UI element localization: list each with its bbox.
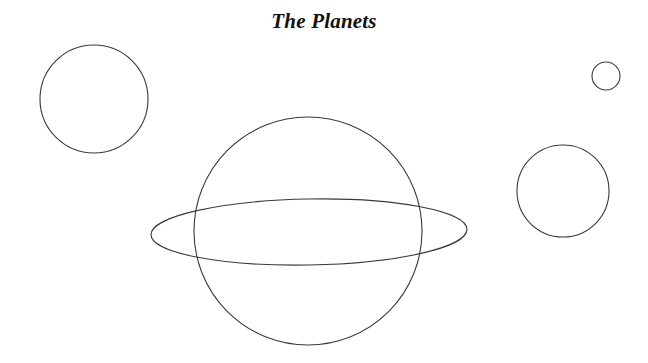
- planets-scene: [0, 0, 648, 363]
- planet-ringed-body: [194, 117, 422, 345]
- planet-right: [517, 145, 609, 237]
- planet-top-left: [40, 45, 148, 153]
- planet-small-top-right: [592, 62, 620, 90]
- planets-figure: The Planets: [0, 0, 648, 363]
